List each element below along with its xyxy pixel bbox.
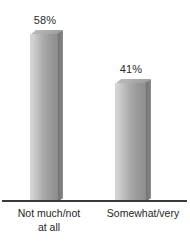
bar-chart: 58% 41% Not much/not at all Somewhat/ver… (0, 0, 190, 249)
bar-value-label-1: 41% (110, 63, 152, 75)
bar-0-front-face (30, 34, 58, 202)
category-axis-labels: Not much/not at all Somewhat/very (0, 205, 190, 249)
category-label-0: Not much/not at all (0, 206, 98, 234)
category-label-1: Somewhat/very (96, 206, 190, 220)
bar-value-label-0: 58% (24, 14, 66, 26)
bar-1-front-face (115, 83, 146, 202)
x-axis-line (2, 200, 187, 202)
bar-0 (30, 34, 57, 202)
bar-1 (115, 83, 145, 202)
plot-area: 58% 41% (0, 0, 190, 202)
